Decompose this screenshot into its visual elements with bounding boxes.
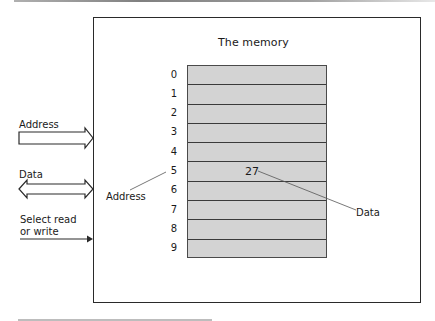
address-leader-line [130,172,166,190]
select-line-arrow-icon [20,236,93,243]
data-bus-double-arrow-icon [19,180,93,198]
data-leader-line [258,171,356,210]
address-bus-arrow-icon [19,128,93,148]
diagram-arrows [0,0,435,321]
